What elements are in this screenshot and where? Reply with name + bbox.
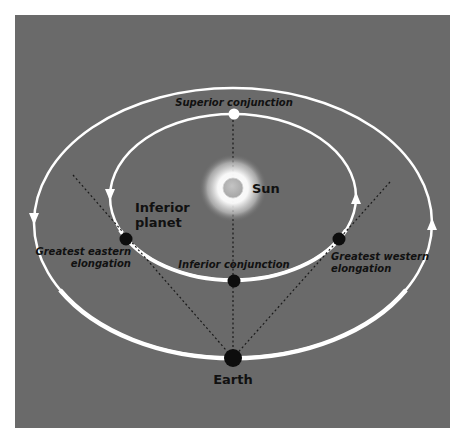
inferior-conjunction-planet xyxy=(228,275,241,288)
eastern-elongation-planet xyxy=(120,233,133,246)
label-superior-conjunction: Superior conjunction xyxy=(175,97,293,108)
western-elongation-planet xyxy=(333,233,346,246)
earth-planet xyxy=(224,349,242,367)
label-greatest-eastern-1: Greatest eastern xyxy=(35,246,131,257)
superior-conjunction-planet xyxy=(229,109,240,120)
label-inferior-planet-1: Inferior xyxy=(135,200,190,215)
label-inferior-conjunction: Inferior conjunction xyxy=(178,259,289,270)
label-sun: Sun xyxy=(252,181,280,196)
sun-icon xyxy=(223,178,243,198)
orbit-diagram: Superior conjunction Sun Inferior planet… xyxy=(0,0,461,442)
label-greatest-eastern-2: elongation xyxy=(71,258,131,269)
label-inferior-planet-2: planet xyxy=(135,215,182,230)
label-greatest-western-1: Greatest western xyxy=(331,251,429,262)
label-greatest-western-2: elongation xyxy=(331,263,391,274)
label-earth: Earth xyxy=(213,372,253,387)
